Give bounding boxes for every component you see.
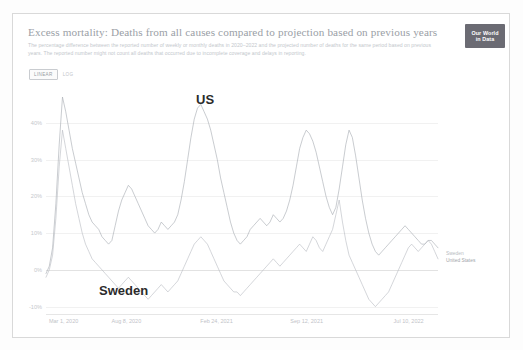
series-line [46,130,438,307]
y-axis-tick-label: 30% [31,157,42,163]
x-axis-line [46,314,438,315]
legend-label: United States [446,258,475,263]
y-axis-tick-label: 20% [31,193,42,199]
y-axis-tick-label: 40% [31,120,42,126]
screenshot-root: Excess mortality: Deaths from all causes… [0,0,523,350]
series-lines [46,86,438,314]
x-axis-tick-label: Sep 12, 2021 [290,318,323,324]
annotation-us: US [196,92,214,107]
chart-legend: SwedenUnited States [446,250,475,264]
y-axis-tick-label: -10% [29,304,42,310]
linear-scale-button[interactable]: LINEAR [29,69,58,80]
scale-toggle[interactable]: LINEAR LOG [29,69,77,80]
legend-item[interactable]: Sweden [446,250,475,257]
page-title: Excess mortality: Deaths from all causes… [28,26,428,39]
legend-item[interactable]: United States [446,257,475,264]
chart-subtitle: The percentage difference between the re… [28,42,443,57]
x-axis-tick-label: Jul 10, 2022 [394,318,424,324]
x-axis-tick-label: Aug 8, 2020 [112,318,142,324]
x-axis-tick-label: Mar 1, 2020 [49,318,78,324]
logo-line-2: in Data [476,36,495,42]
series-line [46,97,438,274]
log-scale-button[interactable]: LOG [58,69,78,80]
annotation-sweden: Sweden [99,283,148,298]
our-world-in-data-logo[interactable]: Our World in Data [465,24,505,48]
y-axis-tick-label: 0% [34,267,42,273]
chart-plot-area: 40%30%20%10%0%-10% Mar 1, 2020Aug 8, 202… [46,86,438,314]
y-axis-tick-label: 10% [31,230,42,236]
x-axis-tick-label: Feb 24, 2021 [200,318,232,324]
legend-label: Sweden [446,251,464,256]
